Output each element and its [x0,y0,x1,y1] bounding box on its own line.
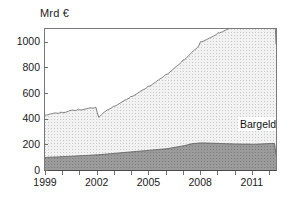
x-tick-mark [79,171,80,175]
y-tick-label: 1000 [17,36,40,46]
plot-area: Bargeldumlauf Mindestreserve [44,28,277,171]
x-tick-mark [62,171,63,175]
x-tick-mark [148,171,149,175]
x-tick-mark [45,171,46,175]
x-tick-label: 2011 [241,176,264,188]
x-tick-mark [252,171,253,175]
y-tick-label: 400 [22,113,40,123]
y-axis-unit-label: Mrd € [40,7,69,19]
x-tick-label: 1999 [33,176,56,188]
stacked-area-series [45,29,276,170]
x-tick-label: 2008 [188,176,211,188]
x-tick-label: 2002 [85,176,108,188]
x-tick-label: 2005 [137,176,160,188]
x-tick-mark [166,171,167,175]
y-tick-label: 600 [22,88,40,98]
x-tick-mark [200,171,201,175]
y-tick-mark [44,67,48,68]
y-tick-label: 200 [22,139,40,149]
x-tick-mark [269,171,270,175]
x-tick-mark [97,171,98,175]
series-label-bargeldumlauf: Bargeldumlauf [238,117,277,131]
y-tick-label: 800 [22,62,40,72]
x-tick-mark [235,171,236,175]
x-tick-mark [114,171,115,175]
chart-container: Mrd € 02004006008001000 Bargeldumlauf Mi… [0,0,289,206]
x-tick-mark [217,171,218,175]
y-tick-mark [44,119,48,120]
x-tick-mark [131,171,132,175]
y-tick-mark [44,144,48,145]
y-tick-mark [44,42,48,43]
x-tick-mark [183,171,184,175]
y-tick-label: 0 [34,165,40,175]
x-axis-tick-labels: 19992002200520082011 [0,176,289,196]
y-tick-mark [44,93,48,94]
